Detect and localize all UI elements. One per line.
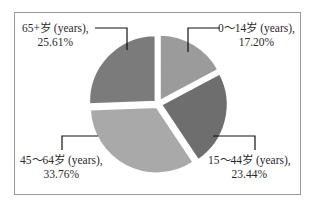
label-65-plus: 65+岁 (years), 25.61%	[22, 21, 89, 49]
label-65-plus-value: 25.61%	[22, 35, 89, 49]
leader-line-45-64	[62, 136, 98, 150]
label-45-64-name: 45～64岁 (years),	[20, 153, 103, 167]
label-15-44-value: 23.44%	[208, 167, 291, 181]
label-45-64: 45～64岁 (years), 33.76%	[20, 153, 103, 181]
label-0-14-name: 0～14岁 (years),	[218, 21, 295, 35]
label-0-14: 0～14岁 (years), 17.20%	[218, 21, 295, 49]
label-45-64-value: 33.76%	[20, 167, 103, 181]
label-15-44-name: 15～44岁 (years),	[208, 153, 291, 167]
slice-65-plus	[89, 35, 156, 105]
label-15-44: 15～44岁 (years), 23.44%	[208, 153, 291, 181]
label-65-plus-name: 65+岁 (years),	[22, 21, 89, 35]
label-0-14-value: 17.20%	[218, 35, 295, 49]
